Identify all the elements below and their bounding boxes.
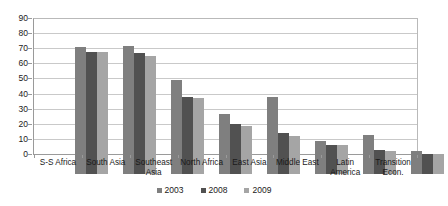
legend-item[interactable]: 2003 xyxy=(157,186,184,195)
x-axis-label: Middle East xyxy=(273,158,321,177)
x-axis-tick-mark xyxy=(82,155,83,158)
x-axis-tick-mark xyxy=(417,155,418,158)
x-axis-label: North Africa xyxy=(178,158,226,177)
y-axis-tick-label: 60 xyxy=(2,59,28,68)
legend-item[interactable]: 2009 xyxy=(244,186,271,195)
bar-group xyxy=(116,38,164,174)
bar-2009 xyxy=(145,56,156,174)
bar-series-container xyxy=(68,38,448,174)
bar-group xyxy=(164,38,212,174)
legend-swatch-icon xyxy=(201,188,206,193)
x-axis-label: East Asia xyxy=(226,158,274,177)
bar-group xyxy=(307,38,355,174)
y-axis-tick-mark xyxy=(28,33,32,34)
y-axis-tick-label: 70 xyxy=(2,44,28,53)
plot-area xyxy=(33,18,418,155)
y-axis-tick-mark xyxy=(28,78,32,79)
legend-label: 2008 xyxy=(209,186,228,195)
legend-item[interactable]: 2008 xyxy=(201,186,228,195)
y-axis-tick-mark xyxy=(28,94,32,95)
y-axis-tick-label: 10 xyxy=(2,135,28,144)
y-axis-tick-mark xyxy=(28,63,32,64)
y-axis-tick-mark xyxy=(28,18,32,19)
gridline xyxy=(34,33,417,34)
y-axis: 9080706050403020100 xyxy=(0,0,33,173)
y-axis-tick-label: 0 xyxy=(2,150,28,159)
bar-group xyxy=(403,38,448,174)
x-axis-tick-mark xyxy=(178,155,179,158)
y-axis-tick-mark xyxy=(28,109,32,110)
y-axis-tick-mark xyxy=(28,48,32,49)
x-axis-label: Transition Econ. xyxy=(369,158,417,177)
bar-group xyxy=(355,38,403,174)
y-axis-tick-label: 30 xyxy=(2,105,28,114)
bar-2008 xyxy=(86,52,97,174)
x-axis-label: S-S Africa xyxy=(34,158,82,177)
y-axis-tick-label: 50 xyxy=(2,74,28,83)
y-axis-tick-label: 20 xyxy=(2,120,28,129)
y-axis-tick-mark xyxy=(28,124,32,125)
bar-2008 xyxy=(422,154,433,174)
chart-legend: 200320082009 xyxy=(0,186,428,195)
x-axis-tick-mark xyxy=(273,155,274,158)
y-axis-tick-label: 80 xyxy=(2,29,28,38)
x-axis-tick-mark xyxy=(34,155,35,158)
y-axis-tick-label: 90 xyxy=(2,14,28,23)
bar-2009 xyxy=(433,154,444,174)
legend-swatch-icon xyxy=(244,188,249,193)
x-axis-tick-mark xyxy=(226,155,227,158)
x-axis-label: Southeast Asia xyxy=(130,158,178,177)
x-axis-labels: S-S AfricaSouth AsiaSoutheast AsiaNorth … xyxy=(34,158,417,177)
legend-label: 2009 xyxy=(252,186,271,195)
x-axis-label: Latin America xyxy=(321,158,369,177)
bar-group xyxy=(68,38,116,174)
y-axis-tick-label: 40 xyxy=(2,90,28,99)
legend-swatch-icon xyxy=(157,188,162,193)
y-axis-tick-mark xyxy=(28,139,32,140)
x-axis-tick-mark xyxy=(321,155,322,158)
bar-2009 xyxy=(97,52,108,174)
bar-group xyxy=(212,38,260,174)
x-axis-tick-mark xyxy=(130,155,131,158)
y-axis-tick-mark xyxy=(28,154,32,155)
legend-label: 2003 xyxy=(165,186,184,195)
x-axis-tick-mark xyxy=(369,155,370,158)
bar-2008 xyxy=(134,53,145,174)
x-axis-label: South Asia xyxy=(82,158,130,177)
bar-group xyxy=(260,38,308,174)
